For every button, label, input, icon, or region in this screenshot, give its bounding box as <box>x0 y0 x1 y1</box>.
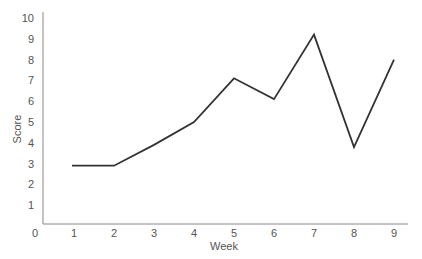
x-axis-title: Week <box>210 240 238 252</box>
x-tick-label: 3 <box>151 227 157 239</box>
x-tick-label: 4 <box>191 227 197 239</box>
y-tick-label: 8 <box>28 54 34 66</box>
x-tick-label: 2 <box>111 227 117 239</box>
y-tick-label: 4 <box>28 137 34 149</box>
y-tick-label: 1 <box>28 199 34 211</box>
y-axis-title: Score <box>11 115 23 144</box>
y-tick-label: 3 <box>28 158 34 170</box>
x-tick-label: 5 <box>231 227 237 239</box>
y-tick-label: 9 <box>28 33 34 45</box>
y-tick-label: 7 <box>28 74 34 86</box>
score-line <box>72 35 394 166</box>
x-tick-label: 6 <box>271 227 277 239</box>
y-tick-labels: 12345678910 <box>22 12 34 211</box>
x-tick-label: 9 <box>391 227 397 239</box>
x-tick-label: 1 <box>71 227 77 239</box>
y-tick-label: 5 <box>28 116 34 128</box>
line-chart: 12345678910 0123456789 Week Score <box>0 0 422 259</box>
y-tick-label: 2 <box>28 178 34 190</box>
x-tick-labels: 0123456789 <box>32 227 397 239</box>
y-tick-label: 6 <box>28 95 34 107</box>
x-tick-label: 0 <box>32 227 38 239</box>
x-tick-label: 7 <box>311 227 317 239</box>
y-tick-label: 10 <box>22 12 34 24</box>
x-tick-label: 8 <box>351 227 357 239</box>
